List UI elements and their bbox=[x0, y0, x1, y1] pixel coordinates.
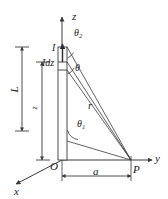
theta-label: θ bbox=[75, 63, 80, 73]
theta2-label: θ2 bbox=[74, 28, 82, 38]
theta1-label: θ1 bbox=[77, 119, 85, 129]
physics-diagram-figure: z y x O P I Idz L z a r θ2 θ θ1 bbox=[0, 0, 168, 199]
axis-group bbox=[16, 17, 152, 184]
dimension-z bbox=[36, 62, 50, 160]
origin-label: O bbox=[50, 161, 58, 172]
theta2-subscript: 2 bbox=[79, 32, 82, 39]
ray-element-top-to-p bbox=[67, 62, 131, 160]
wire-conductor bbox=[58, 47, 67, 160]
point-p-label: P bbox=[133, 164, 140, 175]
length-L-label: L bbox=[9, 86, 20, 92]
height-z-label: z bbox=[31, 106, 39, 109]
x-axis-label: x bbox=[14, 186, 19, 197]
theta1-arc bbox=[68, 130, 79, 140]
y-axis-label: y bbox=[155, 153, 160, 164]
theta1-subscript: 1 bbox=[82, 123, 85, 130]
distance-r-label: r bbox=[88, 100, 92, 111]
diagram-canvas bbox=[0, 0, 168, 199]
current-label: I bbox=[52, 43, 55, 53]
z-axis-label: z bbox=[72, 11, 76, 22]
wire-body bbox=[58, 47, 67, 160]
current-element-label: Idz bbox=[42, 58, 54, 68]
ray-r-to-p bbox=[67, 70, 131, 160]
distance-a-label: a bbox=[93, 166, 99, 177]
